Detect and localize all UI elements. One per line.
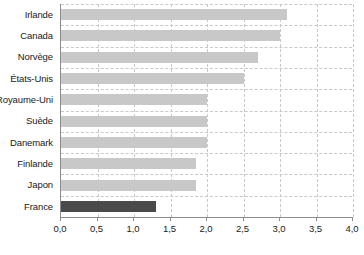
category-label: Canada <box>0 25 57 46</box>
bar-row <box>61 4 352 25</box>
category-label: Danemark <box>0 132 57 153</box>
category-label: Suède <box>0 110 57 131</box>
axis-tick <box>170 217 171 221</box>
axis-tick-label: 4,0 <box>345 224 358 234</box>
bar-row <box>61 110 352 131</box>
category-label: France <box>0 196 57 217</box>
category-label: Finlande <box>0 153 57 174</box>
axis-tick-label: 2,0 <box>199 224 212 234</box>
axis-tick <box>133 217 134 221</box>
axis-tick <box>206 217 207 221</box>
bar-row <box>61 153 352 174</box>
axis-tick-label: 1,0 <box>126 224 139 234</box>
bar-row <box>61 196 352 217</box>
bar <box>61 137 207 148</box>
axis-tick <box>279 217 280 221</box>
bar-row <box>61 132 352 153</box>
axis-tick <box>60 217 61 221</box>
gridline-vertical <box>353 4 354 217</box>
bar-row <box>61 68 352 89</box>
bar <box>61 30 280 41</box>
bar-row <box>61 174 352 195</box>
category-label: Irlande <box>0 4 57 25</box>
axis-tick-label: 0,5 <box>90 224 103 234</box>
bar-row <box>61 47 352 68</box>
bar <box>61 52 258 63</box>
bar-row <box>61 89 352 110</box>
axis-tick-label: 0,0 <box>53 224 66 234</box>
axis-tick <box>97 217 98 221</box>
bar-row <box>61 25 352 46</box>
bar <box>61 180 196 191</box>
category-label: Royaume-Uni <box>0 89 57 110</box>
axis-tick-label: 2,5 <box>236 224 249 234</box>
axis-tick-label: 3,5 <box>309 224 322 234</box>
category-label: Norvège <box>0 47 57 68</box>
bar <box>61 94 207 105</box>
axis-tick <box>243 217 244 221</box>
bars-layer <box>61 4 352 217</box>
bar-chart: IrlandeCanadaNorvègeÉtats-UnisRoyaume-Un… <box>0 0 364 255</box>
category-label: États-Unis <box>0 68 57 89</box>
plot-area <box>60 4 352 217</box>
bar <box>61 73 244 84</box>
bar <box>61 9 287 20</box>
bar <box>61 116 207 127</box>
bar <box>61 201 156 212</box>
axis-tick <box>316 217 317 221</box>
axis-tick <box>352 217 353 221</box>
axis-tick-label: 3,0 <box>272 224 285 234</box>
bar <box>61 158 196 169</box>
category-label: Japon <box>0 174 57 195</box>
axis-tick-label: 1,5 <box>163 224 176 234</box>
category-axis: IrlandeCanadaNorvègeÉtats-UnisRoyaume-Un… <box>0 4 57 217</box>
